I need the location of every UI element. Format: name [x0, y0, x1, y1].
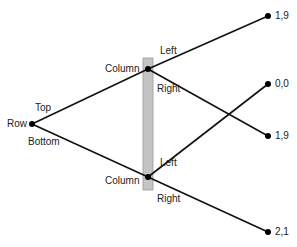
- terminal-node-bottom-left: [265, 81, 271, 87]
- upper-action-left-label: Left: [160, 46, 177, 56]
- lower-column-node: [145, 174, 151, 180]
- row-player-label: Row: [7, 119, 27, 129]
- edge-lower-right: [148, 177, 268, 232]
- edge-upper-right: [148, 69, 268, 136]
- payoff-bottom-left: 0,0: [275, 79, 289, 89]
- root-node: [29, 121, 35, 127]
- lower-action-left-label: Left: [160, 158, 177, 168]
- action-bottom-label: Bottom: [28, 137, 60, 147]
- lower-column-player-label: Column: [105, 176, 139, 186]
- terminal-node-top-left: [265, 13, 271, 19]
- edge-upper-left: [148, 16, 268, 69]
- upper-action-right-label: Right: [157, 84, 180, 94]
- payoff-top-left: 1,9: [275, 11, 289, 21]
- edge-bottom: [32, 124, 148, 177]
- edge-top: [32, 69, 148, 124]
- payoff-bottom-right: 2,1: [275, 227, 289, 237]
- upper-column-node: [145, 66, 151, 72]
- lower-action-right-label: Right: [157, 194, 180, 204]
- upper-column-player-label: Column: [105, 64, 139, 74]
- information-set-bar: [143, 58, 153, 190]
- action-top-label: Top: [35, 103, 51, 113]
- terminal-node-top-right: [265, 133, 271, 139]
- terminal-node-bottom-right: [265, 229, 271, 235]
- payoff-top-right: 1,9: [275, 131, 289, 141]
- game-tree-canvas: [0, 0, 297, 247]
